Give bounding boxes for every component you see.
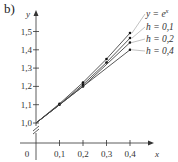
data-point [105,58,108,61]
leader-line [132,50,145,51]
series-line [36,50,130,123]
y-tick-label: 1,5 [21,27,33,37]
series-labels: y = exh = 0,1h = 0,2h = 0,4 [132,7,174,56]
x-axis-arrow-icon [148,141,154,146]
y-tick-label: 1,0 [21,118,33,128]
series-line [36,33,130,123]
y-tick-label: 1,1 [21,100,32,110]
leader-line [132,27,145,38]
y-tick-label: 1,4 [21,45,33,55]
x-tick-label: 0,2 [77,149,88,159]
y-tick-label: 1,2 [21,81,32,91]
data-point [129,41,132,44]
y-axis-label: y [25,9,30,19]
x-tick-label: 0 [25,149,30,159]
data-point [129,37,132,40]
euler-method-chart: yx00,10,20,30,41,01,11,21,31,41,5 y = ex… [0,0,178,162]
series-label: h = 0,2 [146,34,174,44]
y-axis-arrow-icon [34,10,39,16]
data-point [129,32,132,35]
leader-line [132,14,145,33]
x-tick-label: 0,1 [54,149,65,159]
data-point [129,49,132,52]
series-label: h = 0,1 [146,22,174,32]
x-axis-label: x [154,149,159,159]
series-lines [36,32,131,123]
x-tick-label: 0,3 [101,149,113,159]
axes: yx00,10,20,30,41,01,11,21,31,41,5 [20,9,159,160]
series-label: y = ex [145,7,169,19]
y-tick-label: 1,3 [21,63,33,73]
leader-line [132,39,145,42]
series-label: h = 0,4 [146,46,174,56]
x-tick-label: 0,4 [124,149,136,159]
series-line [36,38,130,123]
